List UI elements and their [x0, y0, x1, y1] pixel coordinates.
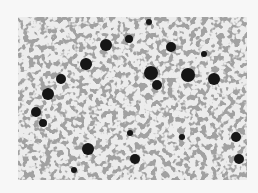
graphite-nodule: [82, 143, 94, 155]
graphite-nodule: [125, 35, 133, 43]
graphite-nodule: [130, 154, 140, 164]
micrograph-texture: [18, 17, 247, 180]
graphite-nodule: [127, 130, 133, 136]
graphite-nodule: [181, 68, 195, 82]
graphite-nodule: [100, 39, 112, 51]
graphite-nodule: [146, 19, 152, 25]
graphite-nodule: [42, 88, 54, 100]
graphite-nodule: [80, 58, 92, 70]
graphite-nodule: [208, 73, 220, 85]
graphite-nodule: [144, 66, 158, 80]
graphite-nodule: [166, 42, 176, 52]
graphite-nodule: [201, 51, 207, 57]
graphite-nodule: [71, 167, 77, 173]
graphite-nodule: [39, 119, 47, 127]
graphite-nodule: [152, 80, 162, 90]
micrograph-image: [18, 17, 247, 180]
graphite-nodule: [234, 154, 244, 164]
graphite-nodule: [231, 132, 241, 142]
graphite-nodule: [179, 134, 185, 140]
graphite-nodule: [56, 74, 66, 84]
graphite-nodule: [31, 107, 41, 117]
